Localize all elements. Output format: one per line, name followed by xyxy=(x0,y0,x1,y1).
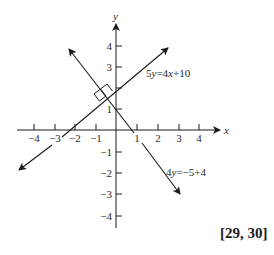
x-tick-label: −3 xyxy=(49,132,61,144)
y-tick-label: 1 xyxy=(107,103,113,115)
x-tick-label: 1 xyxy=(134,132,140,144)
x-tick-label: −2 xyxy=(69,132,81,144)
y-tick-label: −4 xyxy=(100,210,112,222)
right-angle-marker xyxy=(101,84,113,96)
y-tick-label: 4 xyxy=(107,40,113,52)
line-5y-4x-10-lower xyxy=(19,145,52,170)
x-axis-label: x xyxy=(223,124,229,136)
y-ticks xyxy=(116,46,122,216)
y-tick-label: 3 xyxy=(107,61,113,73)
coordinate-plane: −4 −3 −2 −1 1 2 3 4 4 3 1 −1 −2 −3 −4 x … xyxy=(0,0,274,255)
y-axis-label: y xyxy=(112,10,118,22)
x-tick-label: 3 xyxy=(176,132,182,144)
y-tick-label: −1 xyxy=(100,146,112,158)
y-tick-label: −3 xyxy=(100,188,112,200)
line-1-label: 5y=4x+10 xyxy=(146,67,191,79)
problem-reference: [29, 30] xyxy=(220,225,268,242)
line-2-label: 4y=−5+4 xyxy=(166,166,207,178)
x-tick-label: 4 xyxy=(196,132,202,144)
x-tick-label: −1 xyxy=(90,132,102,144)
x-tick-label: −4 xyxy=(28,132,40,144)
y-tick-label: −2 xyxy=(100,167,112,179)
x-tick-label: 2 xyxy=(155,132,161,144)
